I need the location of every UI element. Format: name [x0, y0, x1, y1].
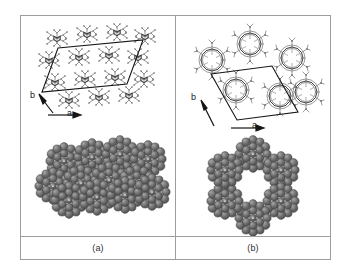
panel-a-cell: a b [21, 16, 176, 236]
panel-image-row: a b [21, 16, 330, 236]
panel-b-stick-view: a b [176, 16, 330, 134]
panel-grid: a b [21, 16, 330, 259]
panel-a-axis-a-label: a [67, 108, 72, 118]
panel-caption-row: (a) (b) [21, 236, 330, 259]
panel-b-axis-a-label: a [252, 120, 257, 130]
panel-b-cell: a b [176, 16, 330, 236]
panel-a-spacefill-view [21, 130, 175, 236]
panel-a-caption: (a) [21, 237, 176, 259]
figure-frame: a b [20, 15, 331, 260]
panel-a-axis-b-label: b [30, 90, 35, 100]
panel-a-stick-view: a b [21, 16, 175, 134]
panel-b-caption: (b) [176, 237, 330, 259]
panel-b-axis-b-label: b [191, 92, 196, 102]
panel-b-spacefill-view [176, 130, 330, 236]
